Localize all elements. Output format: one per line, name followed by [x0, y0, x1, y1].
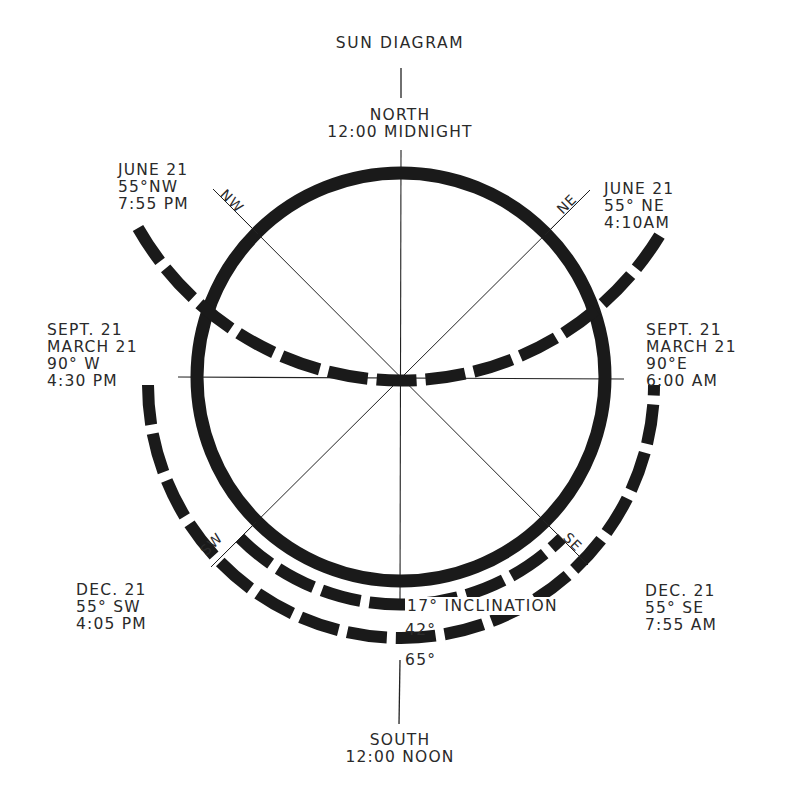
- june-nw-annotation: JUNE 21 55°NW 7:55 PM: [118, 162, 189, 213]
- south-label: SOUTH 12:00 NOON: [300, 732, 500, 766]
- bearing-text: 55° NE: [604, 198, 674, 215]
- arc-outer-label: 65°: [405, 651, 436, 669]
- arc-middle-label: 42°: [405, 621, 436, 639]
- diagram-title: SUN DIAGRAM: [300, 35, 500, 52]
- date-text: MARCH 21: [646, 339, 737, 356]
- equinox-east-annotation: SEPT. 21 MARCH 21 90°E 6:00 AM: [646, 322, 737, 390]
- arc-inner-label: 17° INCLINATION: [405, 597, 560, 615]
- bearing-text: 90° W: [47, 356, 138, 373]
- date-text: JUNE 21: [118, 162, 189, 179]
- time-text: 4:10AM: [604, 215, 674, 232]
- date-text: MARCH 21: [47, 339, 138, 356]
- time-text: 7:55 PM: [118, 196, 189, 213]
- south-direction: SOUTH: [300, 732, 500, 749]
- time-text: 4:05 PM: [76, 616, 147, 633]
- bearing-text: 90°E: [646, 356, 737, 373]
- dec-sw-annotation: DEC. 21 55° SW 4:05 PM: [76, 582, 147, 633]
- date-text: DEC. 21: [645, 583, 717, 600]
- bearing-text: 55° SE: [645, 600, 717, 617]
- bearing-text: 55°NW: [118, 179, 189, 196]
- time-text: 6:00 AM: [646, 373, 737, 390]
- date-text: JUNE 21: [604, 181, 674, 198]
- dec-se-annotation: DEC. 21 55° SE 7:55 AM: [645, 583, 717, 634]
- south-time: 12:00 NOON: [300, 749, 500, 766]
- north-label: NORTH 12:00 MIDNIGHT: [300, 107, 500, 141]
- june-ne-annotation: JUNE 21 55° NE 4:10AM: [604, 181, 674, 232]
- date-text: SEPT. 21: [646, 322, 737, 339]
- sun-diagram: SUN DIAGRAM NORTH 12:00 MIDNIGHT SOUTH 1…: [0, 0, 788, 807]
- time-text: 4:30 PM: [47, 373, 138, 390]
- equinox-west-annotation: SEPT. 21 MARCH 21 90° W 4:30 PM: [47, 322, 138, 390]
- date-text: SEPT. 21: [47, 322, 138, 339]
- bearing-text: 55° SW: [76, 599, 147, 616]
- north-time: 12:00 MIDNIGHT: [300, 124, 500, 141]
- north-direction: NORTH: [300, 107, 500, 124]
- time-text: 7:55 AM: [645, 617, 717, 634]
- date-text: DEC. 21: [76, 582, 147, 599]
- south-axis-line: [399, 660, 400, 724]
